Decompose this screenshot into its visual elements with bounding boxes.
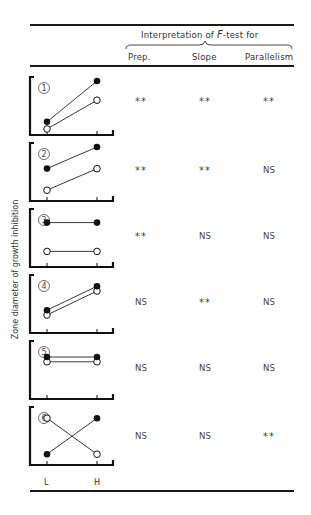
brace-icon [126, 41, 292, 49]
x-tick-h: H [94, 478, 100, 487]
cell-prep: NS [116, 297, 166, 307]
cell-prep: ** [116, 96, 166, 107]
filled-point [94, 78, 101, 85]
cell-parallelism: NS [244, 297, 294, 307]
filled-point [44, 165, 51, 172]
cell-slope: ** [180, 297, 230, 308]
cell-prep: NS [116, 363, 166, 373]
svg-text:4: 4 [41, 282, 46, 291]
cell-slope: NS [180, 363, 230, 373]
filled-point [94, 354, 101, 361]
filled-point [94, 283, 101, 290]
svg-text:1: 1 [41, 84, 46, 93]
filled-point [44, 119, 51, 126]
filled-point [94, 219, 101, 226]
column-header-parallelism: Parallelism [245, 52, 293, 62]
cell-prep: NS [116, 431, 166, 441]
bottom-rule [30, 490, 294, 492]
filled-point [44, 354, 51, 361]
cell-parallelism: NS [244, 363, 294, 373]
svg-text:2: 2 [41, 150, 46, 159]
open-point [44, 248, 51, 255]
y-axis-label: Zone diameter of growth inhibition [11, 175, 20, 365]
cell-prep: ** [116, 165, 166, 176]
cell-slope: NS [180, 431, 230, 441]
open-point [44, 187, 51, 194]
cell-parallelism: ** [244, 431, 294, 442]
column-header-prep: Prep. [128, 52, 151, 62]
filled-point [44, 451, 51, 458]
cell-parallelism: NS [244, 231, 294, 241]
cell-slope: NS [180, 231, 230, 241]
filled-point [94, 415, 101, 422]
cell-parallelism: ** [244, 96, 294, 107]
filled-point [44, 219, 51, 226]
cell-slope: ** [180, 165, 230, 176]
open-point [94, 97, 101, 104]
column-header-slope: Slope [192, 52, 217, 62]
open-point [94, 248, 101, 255]
filled-point [44, 307, 51, 314]
cell-parallelism: NS [244, 165, 294, 175]
filled-point [94, 144, 101, 151]
header-rule [30, 65, 294, 67]
open-point [94, 451, 101, 458]
open-point [44, 415, 51, 422]
cell-prep: ** [116, 231, 166, 242]
x-tick-l: L [44, 478, 48, 487]
cell-slope: ** [180, 96, 230, 107]
open-point [94, 165, 101, 172]
open-point [44, 126, 51, 133]
